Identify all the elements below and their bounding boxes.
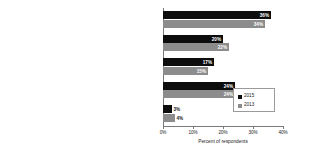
x-axis-title: Percent of respondents xyxy=(163,139,283,144)
bar-value-2013: 24% xyxy=(224,92,233,97)
legend-label-2013: 2013 xyxy=(244,103,254,108)
bar-value-2013: 15% xyxy=(197,68,206,73)
bar-2013[interactable]: 4% xyxy=(163,114,175,122)
bar-2015[interactable]: 24% xyxy=(163,82,235,90)
bar-value-2015: 17% xyxy=(203,60,212,65)
bar-value-2015: 24% xyxy=(224,83,233,88)
x-tick-label-40: 40% xyxy=(278,130,287,135)
bar-group: 17% 15% xyxy=(163,55,283,79)
x-tick-label-10: 10% xyxy=(188,130,197,135)
bar-2015[interactable]: 3% xyxy=(163,105,172,113)
bar-2015[interactable]: 36% xyxy=(163,11,271,19)
x-tick-10 xyxy=(193,126,194,129)
x-tick-0 xyxy=(163,126,164,129)
chart-category-row: It was the default option considering th… xyxy=(0,32,318,56)
x-tick-20 xyxy=(223,126,224,129)
x-tick-30 xyxy=(253,126,254,129)
bar-group: 36% 34% xyxy=(163,8,283,32)
bar-chart: It was a deliberate decision for this pr… xyxy=(0,0,318,153)
x-tick-40 xyxy=(283,126,284,129)
bar-2013[interactable]: 34% xyxy=(163,20,265,28)
bar-2015[interactable]: 17% xyxy=(163,58,214,66)
bar-2013[interactable]: 24% xyxy=(163,90,235,98)
x-tick-label-20: 20% xyxy=(218,130,227,135)
x-tick-label-30: 30% xyxy=(248,130,257,135)
legend-label-2015: 2015 xyxy=(244,94,254,99)
bar-value-2015: 20% xyxy=(212,36,221,41)
x-tick-label-0: 0% xyxy=(160,130,167,135)
legend-swatch-icon xyxy=(238,95,242,99)
chart-category-row: It was a deliberate decision for this pr… xyxy=(0,8,318,32)
legend-swatch-icon xyxy=(238,104,242,108)
bar-value-2015: 36% xyxy=(260,13,269,18)
legend-item-2013[interactable]: 2013 xyxy=(238,101,274,110)
bar-value-2013: 4% xyxy=(177,115,184,120)
bar-value-2013: 22% xyxy=(218,45,227,50)
bar-2015[interactable]: 20% xyxy=(163,35,223,43)
bar-group: 20% 22% xyxy=(163,32,283,56)
bar-value-2015: 3% xyxy=(174,107,181,112)
bar-2013[interactable]: 22% xyxy=(163,43,229,51)
bar-2013[interactable]: 15% xyxy=(163,67,208,75)
legend-item-2015[interactable]: 2015 xyxy=(238,92,274,101)
chart-category-row: It was an organizational standard team s… xyxy=(0,55,318,79)
chart-legend: 2015 2013 xyxy=(233,88,275,112)
bar-value-2013: 34% xyxy=(254,21,263,26)
